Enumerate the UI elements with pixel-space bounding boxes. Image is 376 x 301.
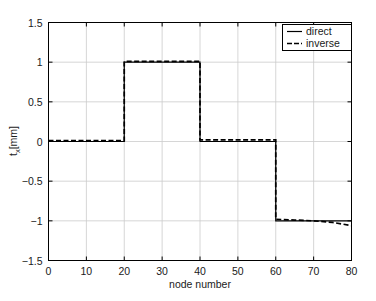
x-axis-title: node number: [169, 278, 231, 290]
x-tick-label: 50: [232, 265, 244, 277]
y-tick-label: 1.5: [28, 17, 43, 29]
legend-label-inverse: inverse: [306, 37, 340, 49]
line-chart: 01020304050607080 −1.5−1−0.500.511.5 nod…: [0, 0, 376, 301]
x-tick-label: 30: [156, 265, 168, 277]
y-tick-label: 1: [37, 56, 43, 68]
y-tick-label: −1: [31, 215, 43, 227]
y-axis-title-unit: [mm]: [7, 126, 19, 149]
y-tick-label: −1.5: [22, 255, 43, 267]
x-tick-label: 70: [308, 265, 320, 277]
y-tick-label: 0.5: [28, 96, 43, 108]
x-tick-label: 40: [194, 265, 206, 277]
y-tick-label: 0: [37, 136, 43, 148]
y-tick-label: −0.5: [22, 175, 43, 187]
x-tick-label: 80: [346, 265, 358, 277]
legend[interactable]: direct inverse: [283, 25, 352, 51]
chart-figure: 01020304050607080 −1.5−1−0.500.511.5 nod…: [0, 0, 376, 301]
legend-label-direct: direct: [306, 25, 332, 37]
x-tick-label: 0: [46, 265, 52, 277]
x-tick-label: 10: [81, 265, 93, 277]
x-tick-label: 60: [270, 265, 282, 277]
x-tick-label: 20: [118, 265, 130, 277]
